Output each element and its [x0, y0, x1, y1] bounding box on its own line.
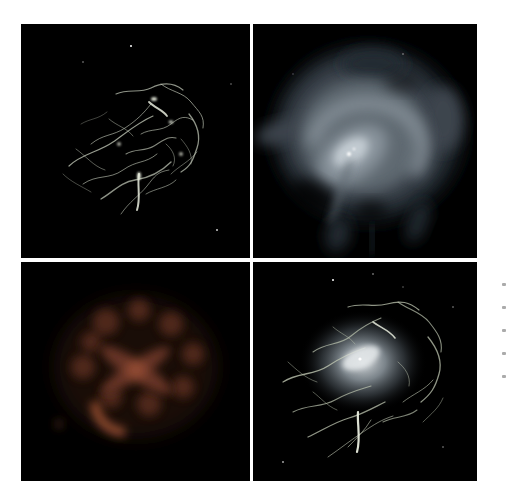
panel-bottom-right-composite-nebula — [253, 262, 477, 481]
cutoff-caption-line-fragment — [502, 375, 506, 378]
diffuse-nebula-image — [253, 24, 477, 258]
cutoff-caption-line-fragment — [502, 329, 506, 332]
cutoff-caption-line-fragment — [502, 283, 506, 286]
panel-bottom-left-infrared-nebula — [21, 262, 250, 481]
figure-page — [0, 0, 507, 483]
nebula-body — [253, 49, 463, 219]
cutoff-caption-line-fragment — [502, 306, 506, 309]
filamentary-nebula-image — [21, 24, 250, 258]
composite-nebula-image — [253, 262, 477, 481]
cutoff-caption-line-fragment — [502, 352, 506, 355]
panel-top-left-filamentary-nebula — [21, 24, 250, 258]
star-dots — [82, 45, 232, 231]
panel-top-right-pulsar-nebula — [253, 24, 477, 258]
filament-web — [63, 84, 203, 214]
red-clumpy-nebula-image — [21, 262, 250, 481]
